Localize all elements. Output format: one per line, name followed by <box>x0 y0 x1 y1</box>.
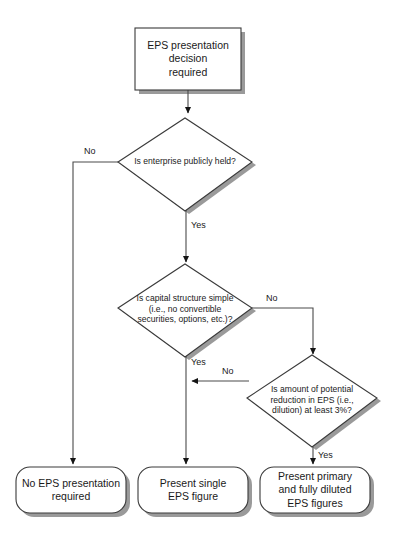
node-outcome-single-shape <box>138 467 248 513</box>
node-decision-public-shape <box>118 118 252 211</box>
node-start-shape <box>135 28 241 90</box>
edge-label-dilution-yes: Yes <box>318 450 333 460</box>
edge-label-public-no: No <box>84 146 96 156</box>
edge-label-dilution-no: No <box>222 366 234 376</box>
node-outcome-both-shape <box>260 467 370 513</box>
flowchart-graphics <box>0 0 395 549</box>
edge-label-public-yes: Yes <box>191 220 206 230</box>
edge-label-simple-no: No <box>266 293 278 303</box>
flowchart-canvas: EPS presentation decision required Is en… <box>0 0 395 549</box>
node-decision-dilution-shape <box>247 355 377 447</box>
edge-label-simple-yes: Yes <box>191 357 206 367</box>
node-decision-simple-shape <box>118 264 252 357</box>
node-outcome-none-shape <box>16 467 126 513</box>
